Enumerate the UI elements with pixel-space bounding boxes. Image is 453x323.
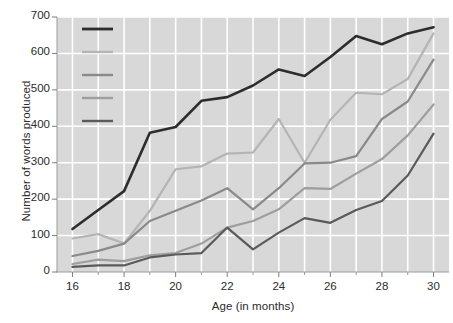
chart-figure: Number of words produced Age (in months)… [0,0,453,323]
plot-canvas [0,0,453,323]
